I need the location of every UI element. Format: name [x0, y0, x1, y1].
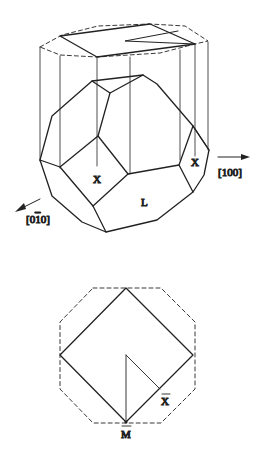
axis-010-arrow-icon — [15, 199, 40, 212]
bottom-dashed-octagon — [60, 288, 195, 423]
brillouin-zone-diagram: X X L [100] [010] X M — [0, 0, 263, 451]
label-x-front: X — [93, 173, 101, 185]
top-triangle — [125, 31, 195, 44]
label-m-bar: M — [121, 428, 131, 440]
top-projection — [40, 24, 208, 57]
label-x-bar: X — [161, 395, 169, 407]
label-l: L — [141, 196, 148, 208]
axis-100-arrow-icon — [218, 154, 250, 160]
label-axis-100: [100] — [218, 166, 242, 178]
surface-brillouin-zone — [60, 288, 195, 424]
truncated-octahedron — [40, 75, 209, 232]
label-axis-010: [010] — [26, 213, 50, 225]
label-x-right: X — [191, 156, 199, 168]
top-dashed-octagon — [40, 24, 208, 57]
